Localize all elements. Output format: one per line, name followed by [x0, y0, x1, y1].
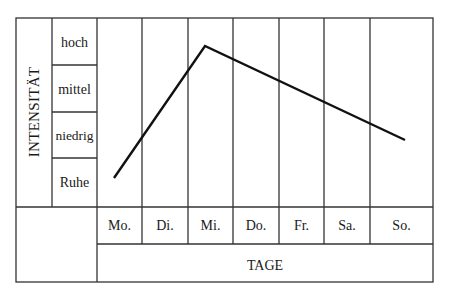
x-axis-title: TAGE: [97, 259, 433, 273]
day-mi: Mi.: [188, 219, 233, 233]
y-axis-title: INTENSITÄT: [26, 67, 43, 157]
y-level-niedrig: niedrig: [52, 129, 97, 143]
day-mo: Mo.: [97, 219, 142, 233]
day-di: Di.: [142, 219, 188, 233]
day-do: Do.: [233, 219, 279, 233]
y-level-mittel: mittel: [52, 83, 97, 97]
day-fr: Fr.: [279, 219, 324, 233]
y-level-ruhe: Ruhe: [52, 176, 97, 190]
day-so: So.: [370, 219, 433, 233]
y-level-hoch: hoch: [52, 36, 97, 50]
day-sa: Sa.: [324, 219, 370, 233]
intensity-line: [114, 46, 405, 178]
